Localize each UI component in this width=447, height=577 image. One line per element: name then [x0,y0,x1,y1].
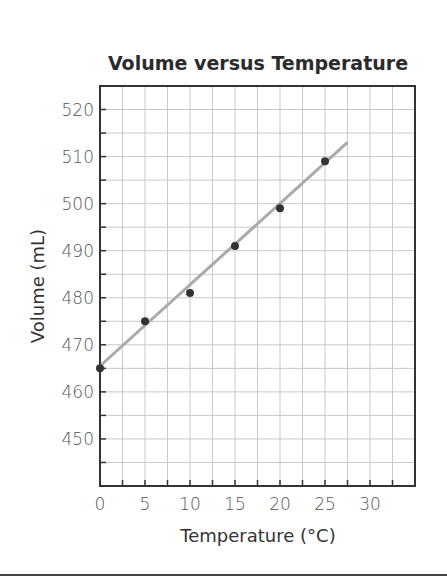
x-tick-label: 5 [140,494,151,514]
x-tick-label: 20 [269,494,291,514]
y-tick-label: 460 [62,382,94,402]
x-axis-label: Temperature (°C) [179,525,335,546]
trend-line [100,142,348,366]
y-tick-labels: 450460470480490500510520 [62,100,94,449]
x-tick-label: 15 [224,494,246,514]
y-tick-label: 490 [62,241,94,261]
x-tick-label: 10 [179,494,201,514]
data-point [276,204,284,212]
grid-lines [100,86,415,486]
x-tick-labels: 051015202530 [95,494,381,514]
data-point [186,289,194,297]
x-tick-label: 30 [359,494,381,514]
chart-title: Volume versus Temperature [108,52,408,74]
data-point [141,317,149,325]
y-tick-label: 450 [62,429,94,449]
y-tick-label: 480 [62,288,94,308]
data-point [321,157,329,165]
volume-temperature-chart: Volume versus Temperature 45046047048049… [0,0,447,577]
y-axis-label: Volume (mL) [27,229,48,343]
x-tick-label: 0 [95,494,106,514]
y-tick-label: 510 [62,147,94,167]
y-tick-label: 520 [62,100,94,120]
y-tick-label: 500 [62,194,94,214]
data-point [231,242,239,250]
x-tick-label: 25 [314,494,336,514]
y-tick-label: 470 [62,335,94,355]
data-point [96,364,104,372]
